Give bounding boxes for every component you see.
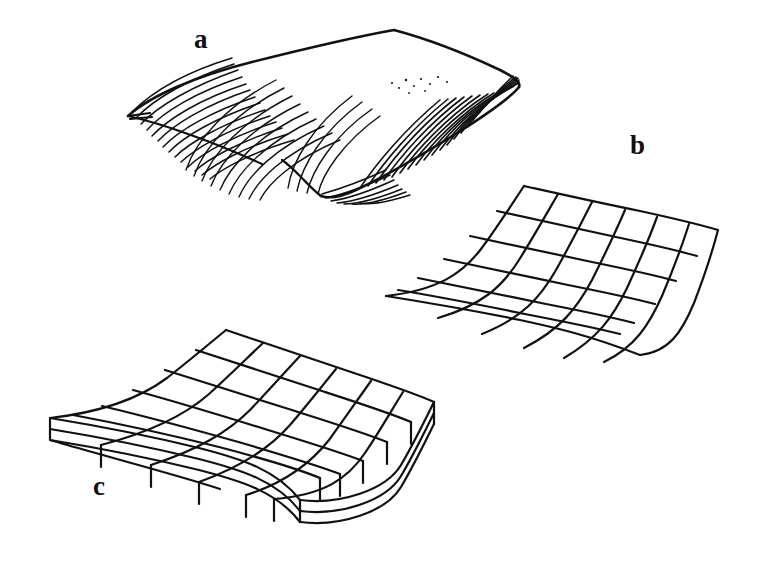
panel-label-b: b (630, 132, 645, 159)
panel-a-shaded-surface (128, 30, 519, 204)
panel-label-a: a (194, 26, 208, 53)
panel-b-wireframe-mesh (386, 186, 718, 362)
figure-canvas: a b c (0, 0, 778, 566)
panel-label-c: c (93, 473, 105, 500)
panel-c-top-u-lines (50, 330, 434, 500)
panel-a-stipple (391, 76, 448, 94)
panel-c-right-side-face (300, 402, 434, 523)
panel-c-top-v-lines (50, 330, 434, 501)
panel-a-hatching-bottom-fold (322, 170, 410, 204)
panel-c-extruded-slab (50, 330, 434, 523)
figure-illustration (0, 0, 778, 566)
panel-b-v-lines (386, 186, 718, 362)
